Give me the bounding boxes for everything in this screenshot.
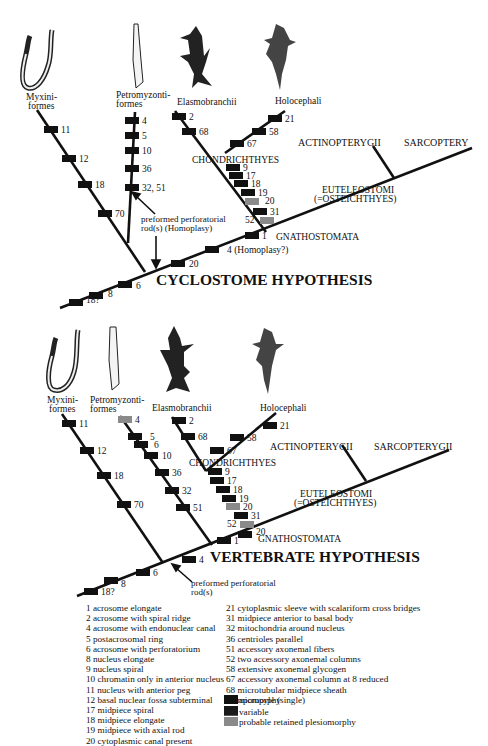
svg-text:8: 8 (108, 289, 113, 299)
svg-text:21: 21 (280, 421, 290, 431)
taxon-petromyzontiformes-2: Petromyzonti-formes (90, 395, 144, 414)
character-item: 51 accessory axonemal fibers (226, 644, 420, 654)
svg-text:18?: 18? (86, 295, 100, 305)
svg-text:6: 6 (153, 568, 158, 578)
perforatorial-annotation: preformed perforatorialrod(s) (Homoplasy… (141, 214, 226, 233)
apomorphy-swatch (224, 695, 238, 704)
character-item: 17 midpiece spiral (86, 705, 224, 715)
symbol-key: apomorphy variable probable retained ple… (224, 695, 356, 728)
svg-text:70: 70 (115, 209, 125, 219)
svg-text:18: 18 (95, 180, 105, 190)
svg-text:52: 52 (245, 215, 255, 225)
hagfish-illustration-2 (49, 330, 79, 390)
svg-text:4: 4 (135, 415, 140, 425)
key-variable: variable (224, 706, 356, 718)
svg-text:20: 20 (189, 259, 199, 269)
taxon-sarcopterygii-2: SARCOPTERYGII (374, 441, 452, 452)
svg-text:36: 36 (172, 468, 182, 478)
clade-chondrichthyes: CHONDRICHTHYES (192, 155, 279, 165)
svg-text:21: 21 (285, 114, 295, 124)
character-list-left: 1 acrosome elongate 2 acrosome with spir… (86, 603, 224, 746)
character-list-right: 21 cytoplasmic sleeve with scalariform c… (226, 603, 420, 705)
svg-text:32: 32 (182, 486, 192, 496)
lamprey-illustration-2 (109, 327, 119, 390)
taxon-holocephali-2: Holocephali (260, 403, 307, 413)
svg-text:20: 20 (256, 527, 266, 537)
character-item: 18 midpiece elongate (86, 715, 224, 725)
svg-text:1: 1 (262, 231, 267, 241)
taxon-actinopterygii-2: ACTINOPTERYGII (270, 441, 353, 452)
taxon-myxiniformes-2: Myxini-formes (47, 395, 78, 414)
perforatorial-annotation-2: preformed perforatorialrod(s) (191, 578, 276, 597)
hypothesis-title-cyclostome: CYCLOSTOME HYPOTHESIS (156, 271, 372, 288)
svg-text:4 (Homoplasy?): 4 (Homoplasy?) (227, 245, 288, 256)
character-item: 52 two accessory axonemal columns (226, 654, 420, 664)
character-item: 31 midpiece anterior to basal body (226, 613, 420, 623)
svg-text:32, 51: 32, 51 (142, 183, 166, 193)
svg-text:5: 5 (142, 131, 147, 141)
character-item: 1 acrosome elongate (86, 603, 224, 613)
hypothesis-title-vertebrate: VERTEBRATE HYPOTHESIS (210, 548, 420, 565)
character-item: 5 postacrosomal ring (86, 634, 224, 644)
taxon-elasmobranchii: Elasmobranchii (177, 97, 237, 107)
svg-text:10: 10 (142, 146, 152, 156)
chimaera-illustration-2 (252, 328, 284, 394)
character-item: 67 accessory axonemal column at 8 reduce… (226, 674, 420, 684)
svg-text:12: 12 (79, 154, 89, 164)
svg-text:68: 68 (199, 127, 209, 137)
shark-illustration (180, 26, 212, 88)
character-item: 2 acrosome with spiral ridge (86, 613, 224, 623)
svg-text:8: 8 (121, 579, 126, 589)
character-item: 20 cytoplasmic canal present (86, 736, 224, 746)
character-item: 9 nucleus spiral (86, 664, 224, 674)
character-item: 4 acrosome with endonuclear canal (86, 623, 224, 633)
svg-text:18?: 18? (101, 587, 115, 597)
taxon-petromyzontiformes: Petromyzonti-formes (116, 90, 170, 109)
svg-text:67: 67 (247, 139, 257, 149)
svg-text:31: 31 (251, 511, 261, 521)
character-item: 12 basal nuclear fossa subterminal (86, 695, 224, 705)
clade-gnathostomata: GNATHOSTOMATA (276, 232, 359, 242)
taxon-actinopterygii: ACTINOPTERYGII (298, 137, 381, 148)
character-item: 19 midpiece with axial rod (86, 725, 224, 735)
character-item: 10 chromatin only in anterior nucleus (86, 674, 224, 684)
character-item: 8 nucleus elongate (86, 654, 224, 664)
svg-text:67: 67 (227, 446, 237, 456)
character-item: 58 extensive axonemal glycogen (226, 664, 420, 674)
character-item: 6 acrosome with perforatorium (86, 644, 224, 654)
taxon-myxiniformes: Myxini-formes (26, 92, 57, 111)
character-item: 32 mitochondria around nucleus (226, 623, 420, 633)
svg-text:10: 10 (162, 451, 172, 461)
svg-text:6: 6 (154, 440, 159, 450)
svg-text:58: 58 (269, 127, 279, 137)
chimaera-illustration (264, 24, 296, 90)
svg-text:52: 52 (227, 519, 237, 529)
key-apomorphy: apomorphy (224, 695, 356, 706)
svg-text:31: 31 (270, 207, 280, 217)
svg-text:1: 1 (234, 536, 239, 546)
svg-text:2: 2 (189, 416, 194, 426)
taxon-elasmobranchii-2: Elasmobranchii (152, 403, 212, 413)
shark-illustration-2 (160, 326, 194, 392)
variable-swatch (224, 706, 238, 716)
svg-text:70: 70 (134, 500, 144, 510)
character-item: 11 nucleus with anterior peg (86, 685, 224, 695)
taxon-sarcopterygii: SARCOPTERY (404, 137, 468, 148)
key-plesiomorphy: probable retained plesiomorphy (224, 717, 356, 728)
svg-text:2: 2 (189, 112, 194, 122)
lamprey-illustration (133, 24, 143, 88)
svg-text:4: 4 (142, 116, 147, 126)
character-item: 36 centrioles parallel (226, 634, 420, 644)
vertebrate-hypothesis-tree: Myxini-formes Petromyzonti-formes Elasmo… (47, 326, 452, 597)
svg-text:11: 11 (79, 419, 88, 429)
plesiomorphy-swatch (224, 717, 238, 726)
svg-text:11: 11 (61, 125, 70, 135)
svg-text:18: 18 (114, 471, 124, 481)
character-item: 68 microtubular midpiece sheath (226, 685, 420, 695)
taxon-holocephali: Holocephali (275, 96, 322, 106)
svg-text:4: 4 (199, 555, 204, 565)
svg-text:12: 12 (97, 446, 107, 456)
svg-text:6: 6 (136, 281, 141, 291)
svg-text:36: 36 (142, 164, 152, 174)
cyclostome-hypothesis-tree: Myxini-formes Petromyzonti-formes Elasmo… (23, 24, 473, 308)
